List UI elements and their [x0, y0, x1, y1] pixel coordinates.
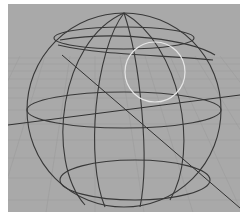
- 3d-viewport[interactable]: 3D Viewport: [8, 4, 240, 212]
- floor-grid: [8, 56, 240, 212]
- world-axes: [8, 55, 240, 208]
